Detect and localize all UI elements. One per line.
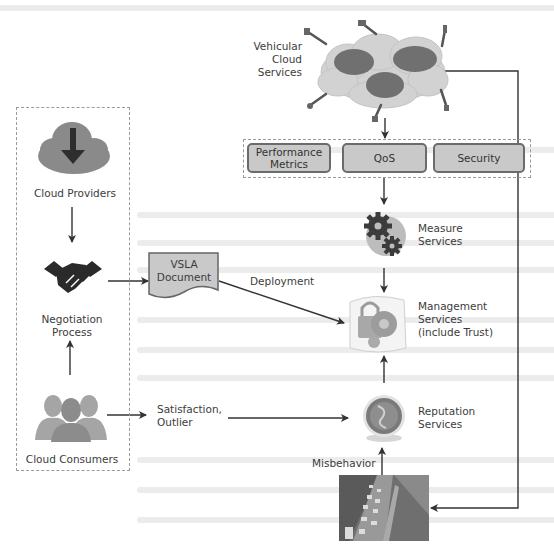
lock-gear-icon — [344, 292, 410, 356]
management-label-line1: Management — [418, 300, 493, 313]
users-icon — [33, 392, 109, 442]
vsla-label-line2: Document — [150, 271, 218, 284]
reputation-globe-icon — [360, 392, 408, 444]
vehicular-cloud-label-line1: Vehicular — [240, 40, 302, 53]
cloud-consumers-label: Cloud Consumers — [20, 453, 124, 466]
traffic-photo — [339, 475, 429, 541]
negotiation-label-line2: Process — [26, 326, 118, 339]
reputation-label-line2: Services — [418, 418, 475, 431]
management-label-line3: (include Trust) — [418, 326, 493, 339]
arrow-feedback-loop — [431, 71, 518, 508]
management-services-label: Management Services (include Trust) — [418, 300, 493, 339]
satisfaction-label-line1: Satisfaction, — [157, 403, 222, 416]
cloud-download-icon — [34, 120, 114, 176]
qos-box: QoS — [342, 143, 427, 173]
measure-label-line2: Services — [418, 235, 463, 248]
misbehavior-label: Misbehavior — [312, 457, 376, 470]
performance-metrics-box: Performance Metrics — [247, 143, 331, 173]
cloud-providers-label: Cloud Providers — [30, 187, 120, 200]
gears-icon — [362, 210, 408, 260]
vehicular-cloud-node — [308, 20, 458, 120]
measure-label-line1: Measure — [418, 222, 463, 235]
reputation-services-label: Reputation Services — [418, 405, 475, 431]
vehicular-cloud-label-line3: Services — [240, 66, 302, 79]
management-label-line2: Services — [418, 313, 493, 326]
vehicular-cloud-icon — [308, 20, 458, 120]
measure-services-label: Measure Services — [418, 222, 463, 248]
handshake-icon — [42, 255, 104, 297]
vsla-document-label: VSLA Document — [150, 258, 218, 284]
vehicular-cloud-label: Vehicular Cloud Services — [240, 40, 302, 79]
vehicular-cloud-label-line2: Cloud — [240, 53, 302, 66]
negotiation-label: Negotiation Process — [26, 313, 118, 339]
negotiation-label-line1: Negotiation — [26, 313, 118, 326]
security-box: Security — [433, 143, 525, 173]
satisfaction-label-line2: Outlier — [157, 416, 222, 429]
satisfaction-label: Satisfaction, Outlier — [157, 403, 222, 429]
deployment-label: Deployment — [250, 275, 314, 288]
vsla-label-line1: VSLA — [150, 258, 218, 271]
reputation-label-line1: Reputation — [418, 405, 475, 418]
